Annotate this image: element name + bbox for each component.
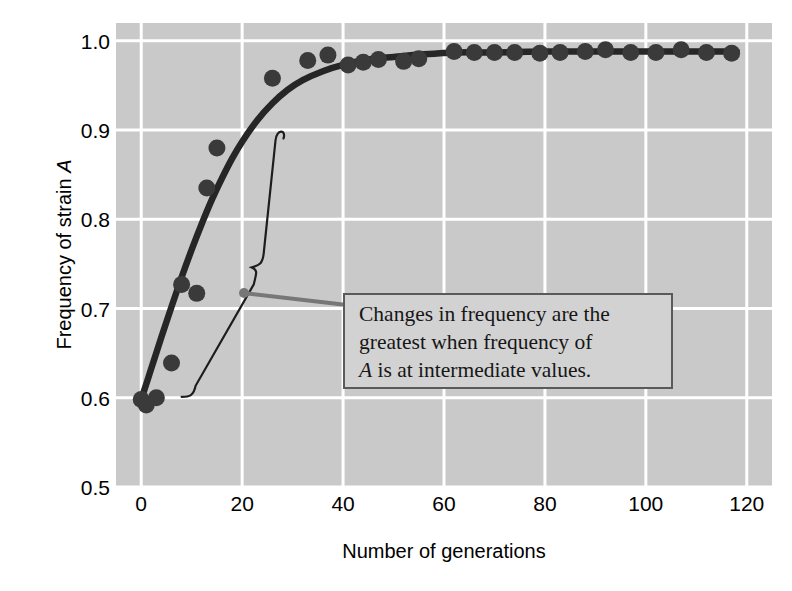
annotation-line-3: A is at intermediate values.: [359, 357, 659, 385]
annotation-italic-a: A: [359, 358, 372, 382]
y-axis-title: Frequency of strain A: [53, 23, 76, 487]
callout-leader-line: [230, 280, 355, 310]
y-axis-title-italic-a: A: [53, 159, 75, 172]
x-tick-label: 20: [202, 493, 282, 514]
x-tick-label: 80: [505, 493, 585, 514]
x-tick-label: 60: [404, 493, 484, 514]
x-axis-title: Number of generations: [116, 540, 772, 563]
x-tick-label: 120: [707, 493, 787, 514]
annotation-line-1: Changes in frequency are the: [359, 301, 659, 329]
plot-area: [116, 23, 772, 487]
annotation-line-2: greatest when frequency of: [359, 329, 659, 357]
y-axis-title-text: Frequency of strain: [53, 173, 75, 350]
chart-figure: 0.50.60.70.80.91.0 020406080100120 Numbe…: [0, 0, 792, 591]
annotation-brace-layer: [116, 23, 772, 487]
x-axis-ticks: 020406080100120: [116, 493, 772, 523]
x-tick-label: 0: [101, 493, 181, 514]
annotation-line-3-rest: is at intermediate values.: [372, 358, 591, 382]
x-tick-label: 100: [606, 493, 686, 514]
annotation-callout-box: Changes in frequency are the greatest wh…: [343, 293, 673, 389]
x-tick-label: 40: [303, 493, 383, 514]
